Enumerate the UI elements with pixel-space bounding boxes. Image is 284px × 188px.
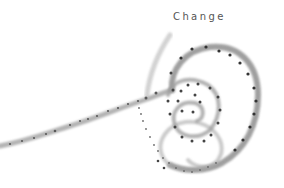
outer-spiral-stroke: [170, 47, 258, 170]
rising-brush-stroke: [147, 35, 170, 95]
artwork-canvas: Change: [0, 0, 284, 188]
spiral-illustration: [0, 0, 284, 188]
